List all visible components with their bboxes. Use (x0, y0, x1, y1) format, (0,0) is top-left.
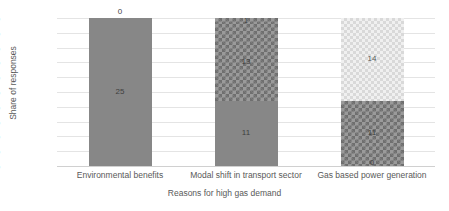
bar-segment-value-label: 11 (242, 129, 250, 137)
x-axis-category-label: Gas based power generation (309, 170, 435, 180)
bar-segment-dotted-top[interactable]: 14 (341, 18, 404, 101)
stacked-bar[interactable]: 1 13 11 (215, 18, 278, 166)
x-axis-category-label: Modal shift in transport sector (183, 170, 309, 180)
chart-container: Share of responses 100% 90% 80% 70% 60% … (0, 0, 449, 211)
bar-segment-value-label: 25 (116, 88, 125, 96)
bar-segment-solid[interactable]: 11 (215, 101, 278, 166)
bar-slot-gas-power-generation: 14 11 0 (309, 18, 435, 166)
plot-area: 0 25 1 13 11 (57, 18, 435, 166)
bar-segment-value-label: 11 (368, 129, 376, 137)
bar-group: 0 25 1 13 11 (57, 18, 435, 166)
bar-slot-modal-shift: 1 13 11 (183, 18, 309, 166)
bar-segment-value-label: 14 (368, 55, 377, 63)
x-axis-category-label: Environmental benefits (57, 170, 183, 180)
x-axis-title: Reasons for high gas demand (0, 188, 449, 198)
bar-segment-value-label: 1 (244, 17, 248, 24)
bar-segment-solid[interactable]: 25 (89, 18, 152, 166)
x-axis-category-labels: Environmental benefits Modal shift in tr… (57, 170, 435, 180)
bar-segment-value-label: 13 (242, 58, 251, 66)
bar-top-value-label: 0 (89, 7, 152, 16)
stacked-bar[interactable]: 0 25 (89, 18, 152, 166)
bar-segment-checkered[interactable]: 11 0 (341, 101, 404, 166)
bar-segment-checkered-middle[interactable]: 13 (215, 24, 278, 101)
bar-slot-environmental-benefits: 0 25 (57, 18, 183, 166)
bar-bottom-value-label: 0 (341, 158, 404, 167)
stacked-bar[interactable]: 14 11 0 (341, 18, 404, 166)
